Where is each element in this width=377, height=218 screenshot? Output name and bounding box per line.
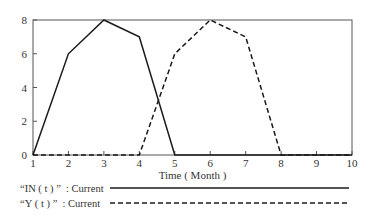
x-tick-label: 3 (101, 157, 107, 169)
x-tick-label: 2 (66, 157, 72, 169)
y-tick-label: 4 (22, 82, 28, 94)
x-tick-label: 9 (314, 157, 320, 169)
y-tick-label: 2 (22, 115, 28, 127)
y-tick-label: 8 (22, 14, 28, 26)
legend-label-y: “Y ( t ) ” : Current (20, 198, 100, 209)
x-axis-title: Time ( Month ) (159, 169, 227, 182)
y-tick-label: 0 (22, 149, 28, 161)
x-tick-label: 5 (172, 157, 178, 169)
legend-item-in: “IN ( t ) ” : Current (20, 181, 104, 195)
x-tick-label: 6 (207, 157, 213, 169)
y-tick-label: 6 (22, 48, 28, 60)
x-tick-label: 4 (137, 157, 143, 169)
x-tick-label: 1 (30, 157, 36, 169)
plot-frame (33, 20, 352, 155)
x-tick-label: 10 (347, 157, 359, 169)
legend-item-y: “Y ( t ) ” : Current (20, 196, 100, 210)
plot-area: 0246812345678910Time ( Month ) (22, 14, 359, 182)
x-tick-label: 8 (278, 157, 284, 169)
legend-label-in: “IN ( t ) ” : Current (20, 183, 104, 194)
series-line-in (33, 20, 352, 155)
x-tick-label: 7 (243, 157, 249, 169)
series-line-y (33, 20, 352, 155)
